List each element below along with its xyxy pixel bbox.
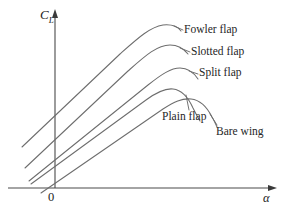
curve-slotted-flap: [25, 45, 188, 168]
curve-label-fowler-flap: Fowler flap: [184, 24, 237, 36]
origin-tick-label: 0: [48, 191, 54, 204]
leader-fowler-flap: [174, 26, 183, 30]
curve-fowler-flap: [22, 25, 181, 147]
curve-label-split-flap: Split flap: [199, 67, 242, 79]
plot-canvas: [0, 0, 285, 216]
curve-label-bare-wing: Bare wing: [216, 126, 264, 138]
curve-label-slotted-flap: Slotted flap: [191, 46, 244, 58]
lift-curve-figure: CL α 0 Fowler flap Slotted flap Split fl…: [0, 0, 285, 216]
curve-plain-flap: [31, 89, 200, 184]
leader-plain-flap: [186, 95, 189, 110]
x-axis-label: α: [263, 192, 270, 205]
curve-label-plain-flap: Plain flap: [162, 111, 206, 123]
y-axis-label-main: C: [40, 7, 49, 22]
y-axis-label: CL: [40, 8, 54, 25]
leader-bare-wing: [210, 114, 217, 125]
y-axis-label-subscript: L: [49, 15, 54, 25]
